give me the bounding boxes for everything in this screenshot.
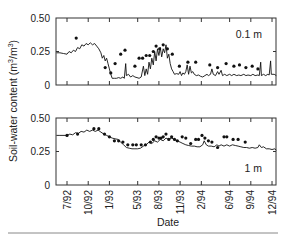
measured-point [164, 133, 167, 136]
measured-point [108, 135, 111, 138]
panel-label-bottom: 1 m [244, 162, 262, 174]
plot-frame-bottom [56, 118, 276, 185]
measured-point [148, 54, 151, 57]
measured-point [76, 133, 79, 136]
measured-point [145, 54, 148, 57]
x-tick-label: 2/94 [196, 190, 207, 210]
y-axis-title: Soil-water content (m3/m3) [7, 40, 19, 162]
measured-point [162, 43, 165, 46]
measured-point [225, 62, 228, 65]
measured-point [232, 65, 235, 68]
measured-point [203, 137, 206, 140]
measured-point [144, 143, 147, 146]
y-tick-label-bottom-0: 0 [44, 180, 50, 191]
x-axis-title: Date [157, 216, 179, 228]
measured-point [152, 138, 155, 141]
measured-point [186, 61, 189, 64]
measured-point [200, 134, 203, 137]
measured-point [237, 138, 240, 141]
measured-point [126, 143, 129, 146]
measured-point [251, 65, 254, 68]
measured-point [171, 53, 174, 56]
measured-point [121, 141, 124, 144]
y-tick-label-top-025: 0.25 [31, 46, 51, 57]
measured-point [113, 139, 116, 142]
measured-point [138, 57, 141, 60]
measured-point [170, 135, 173, 138]
x-tick-label: 10/92 [83, 190, 94, 215]
x-tick-label: 6/94 [224, 190, 235, 210]
measured-point [123, 49, 126, 52]
measured-point [216, 66, 219, 69]
x-tick-labels: 7/9210/921/935/938/9311/932/946/949/9412… [62, 190, 278, 215]
measured-point [119, 53, 122, 56]
x-tick-label: 9/94 [245, 190, 256, 210]
measured-point [238, 63, 241, 66]
measured-point [75, 37, 78, 40]
measured-point [109, 71, 112, 74]
measured-point [158, 47, 161, 50]
measured-point [244, 141, 247, 144]
y-tick-label-top-0: 0 [44, 80, 50, 91]
measured-point [103, 133, 106, 136]
measured-point [140, 143, 143, 146]
measured-point [149, 141, 152, 144]
measured-point [114, 62, 117, 65]
panel-bottom: 0.50 0.25 0 1 m [31, 113, 277, 191]
measured-point [197, 138, 200, 141]
measured-point [232, 138, 235, 141]
measured-point [133, 65, 136, 68]
measured-point [225, 135, 228, 138]
soil-water-chart: Soil-water content (m3/m3) 0.50 0.25 0 0… [0, 0, 286, 242]
measured-point [181, 135, 184, 138]
y-tick-label-top-050: 0.50 [31, 13, 51, 24]
measured-point [176, 139, 179, 142]
measured-point [194, 61, 197, 64]
x-tick-label: 12/94 [267, 190, 278, 215]
measured-point [131, 143, 134, 146]
panel-label-top: 0.1 m [236, 28, 263, 40]
measured-point [189, 142, 192, 145]
measured-point [104, 66, 107, 69]
measured-point [194, 138, 197, 141]
measured-point [92, 127, 95, 130]
measured-point [152, 50, 155, 53]
measured-point [162, 135, 165, 138]
measured-point [184, 137, 187, 140]
measured-point [135, 143, 138, 146]
x-tick-label: 11/93 [175, 190, 186, 215]
measured-point [97, 127, 100, 130]
measured-point [141, 57, 144, 60]
x-tick-label: 7/92 [62, 190, 73, 210]
measured-point [166, 47, 169, 50]
x-tick-label: 5/93 [132, 190, 143, 210]
measured-point [244, 66, 247, 69]
measured-point [117, 139, 120, 142]
measured-point [173, 138, 176, 141]
measured-point [256, 67, 259, 70]
x-tick-label: 1/93 [104, 190, 115, 210]
y-tick-label-bottom-025: 0.25 [31, 146, 51, 157]
measured-point [155, 45, 158, 48]
x-tick-label: 8/93 [153, 190, 164, 210]
measured-point [167, 138, 170, 141]
panel-top: 0.50 0.25 0 0.1 m [31, 13, 277, 91]
y-tick-label-bottom-050: 0.50 [31, 113, 51, 124]
measured-point [222, 135, 225, 138]
measured-point [178, 65, 181, 68]
measured-point [216, 146, 219, 149]
measured-point [208, 63, 211, 66]
measured-point [65, 134, 68, 137]
measured-point [210, 141, 213, 144]
measured-point [155, 135, 158, 138]
measured-point [207, 139, 210, 142]
